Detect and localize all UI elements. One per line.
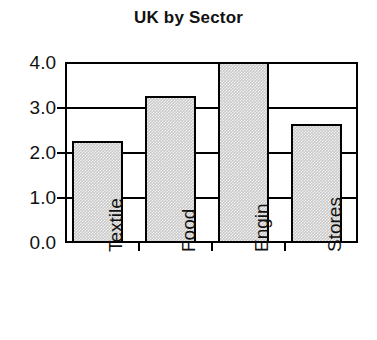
x-tick-mark-3	[284, 243, 286, 251]
x-tick-label-2: Engin	[252, 203, 271, 252]
y-tick-label-3: 3.0	[10, 98, 56, 117]
x-tick-label-1: Food	[179, 209, 198, 252]
y-tick-label-4: 4.0	[10, 53, 56, 72]
x-tick-mark-2	[211, 243, 213, 251]
y-tick-label-2: 2.0	[10, 143, 56, 162]
y-axis-labels: 4.0 3.0 2.0 1.0 0.0	[4, 0, 56, 340]
bar-chart: UK by Sector 4.0 3.0 2.0 1.0 0.0 Textile…	[0, 0, 377, 340]
y-tick-label-1: 1.0	[10, 188, 56, 207]
x-tick-mark-1	[138, 243, 140, 251]
x-tick-label-3: Stores	[325, 197, 344, 252]
chart-title: UK by Sector	[0, 8, 377, 28]
x-tick-label-0: Textile	[106, 198, 125, 252]
y-tick-mark-1	[57, 197, 65, 199]
y-tick-mark-3	[57, 107, 65, 109]
y-tick-mark-2	[57, 152, 65, 154]
y-tick-label-0: 0.0	[10, 233, 56, 252]
